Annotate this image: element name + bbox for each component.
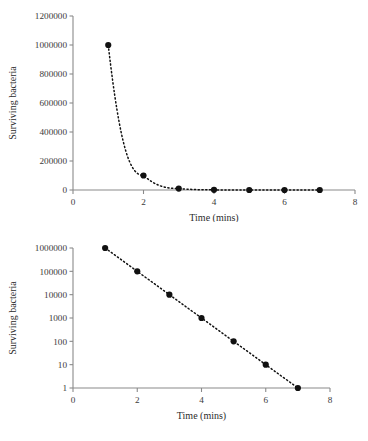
- y-tick-label-5: 100000: [39, 267, 67, 277]
- data-point-2: [166, 292, 172, 298]
- y-tick-label-6: 1000000: [35, 243, 68, 253]
- data-series-group: [105, 42, 323, 193]
- x-tick-label-3: 6: [263, 395, 268, 405]
- y-axis-title: Surviving bacteria: [7, 66, 18, 140]
- x-axis-title: Time (mins): [177, 410, 226, 422]
- y-tick-label-4: 10000: [44, 290, 67, 300]
- log-decay-chart: 110100100010000100000100000002468Time (m…: [0, 222, 368, 441]
- x-tick-label-1: 2: [135, 395, 140, 405]
- y-tick-label-0: 0: [62, 185, 67, 195]
- data-point-1: [140, 172, 146, 178]
- x-axis-title: Time (mins): [189, 212, 238, 222]
- data-point-3: [211, 187, 217, 193]
- x-tick-label-4: 8: [328, 395, 333, 405]
- data-point-5: [281, 187, 287, 193]
- data-point-3: [198, 315, 204, 321]
- y-tick-label-2: 400000: [39, 127, 67, 137]
- series-dotted-line: [108, 45, 320, 190]
- linear-decay-chart: 0200000400000600000800000100000012000000…: [0, 0, 368, 222]
- axes-group: 110100100010000100000100000002468Time (m…: [7, 243, 333, 422]
- x-tick-label-3: 6: [282, 197, 287, 207]
- y-tick-label-5: 1000000: [35, 40, 68, 50]
- x-tick-label-2: 4: [199, 395, 204, 405]
- data-point-5: [263, 362, 269, 368]
- y-tick-label-2: 100: [53, 337, 67, 347]
- y-tick-label-3: 1000: [49, 313, 68, 323]
- data-point-0: [105, 42, 111, 48]
- y-tick-label-1: 10: [58, 360, 68, 370]
- data-series-group: [102, 245, 301, 391]
- data-point-4: [246, 187, 252, 193]
- y-tick-label-4: 800000: [39, 69, 67, 79]
- x-tick-label-2: 4: [212, 197, 217, 207]
- data-point-0: [102, 245, 108, 251]
- log-decay-figure: 110100100010000100000100000002468Time (m…: [0, 222, 368, 441]
- data-point-1: [134, 268, 140, 274]
- y-tick-label-3: 600000: [39, 98, 67, 108]
- y-tick-label-1: 200000: [39, 156, 67, 166]
- y-axis-title: Surviving bacteria: [7, 281, 18, 355]
- linear-decay-figure: 0200000400000600000800000100000012000000…: [0, 0, 368, 222]
- y-tick-label-0: 1: [62, 383, 67, 393]
- data-point-6: [295, 385, 301, 391]
- x-tick-label-0: 0: [71, 197, 76, 207]
- data-point-2: [176, 185, 182, 191]
- x-tick-label-4: 8: [353, 197, 358, 207]
- y-tick-label-6: 1200000: [35, 11, 68, 21]
- data-point-4: [231, 338, 237, 344]
- x-tick-label-0: 0: [71, 395, 76, 405]
- data-point-6: [317, 187, 323, 193]
- x-tick-label-1: 2: [141, 197, 146, 207]
